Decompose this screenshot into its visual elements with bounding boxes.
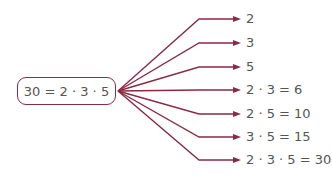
divisor-label: 5 <box>246 59 254 75</box>
arrow-head-icon <box>233 87 241 93</box>
divisor-label: 2 · 3 · 5 = 30 <box>246 152 331 168</box>
arrow-line <box>118 91 235 114</box>
divisor-label: 2 · 3 = 6 <box>246 82 302 98</box>
divisor-label: 2 · 5 = 10 <box>246 106 311 122</box>
arrow-head-icon <box>233 64 241 70</box>
arrow-head-icon <box>233 157 241 163</box>
arrow-head-icon <box>233 111 241 117</box>
arrow-line <box>118 67 235 91</box>
arrow-head-icon <box>233 134 241 140</box>
divisor-label: 2 <box>246 11 254 27</box>
divisor-label: 3 · 5 = 15 <box>246 129 311 145</box>
arrow-head-icon <box>233 40 241 46</box>
divisor-label: 3 <box>246 35 254 51</box>
arrow-head-icon <box>233 16 241 22</box>
arrow-line <box>118 90 235 91</box>
